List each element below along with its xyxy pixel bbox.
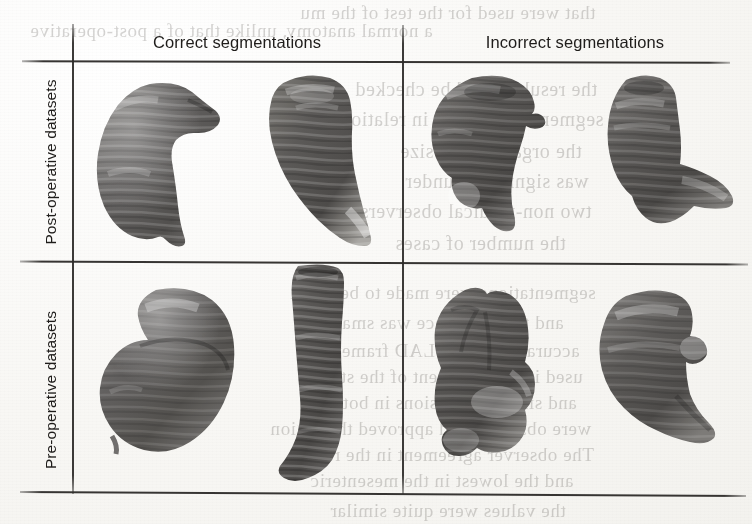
column-header-correct-segmentations: Correct segmentations	[72, 33, 402, 52]
table-rule-row-label-divider	[72, 24, 74, 494]
figure-root: that were used for the test of the mua n…	[0, 0, 752, 524]
table-rule-column-divider	[402, 25, 404, 494]
rendering-post-incorrect-2	[578, 72, 738, 254]
row-header-post-operative-datasets: Post-operative datasets	[42, 62, 60, 262]
rendering-post-correct-1	[92, 78, 232, 258]
rendering-pre-incorrect-2	[580, 286, 730, 466]
rendering-post-incorrect-1	[420, 72, 565, 257]
rendering-pre-incorrect-1	[425, 284, 560, 474]
rendering-pre-correct-2	[262, 264, 372, 492]
rendering-pre-correct-1	[86, 284, 246, 474]
column-header-incorrect-segmentations: Incorrect segmentations	[402, 33, 748, 52]
row-header-pre-operative-datasets: Pre-operative datasets	[42, 290, 60, 490]
rendering-post-correct-2	[252, 70, 377, 260]
